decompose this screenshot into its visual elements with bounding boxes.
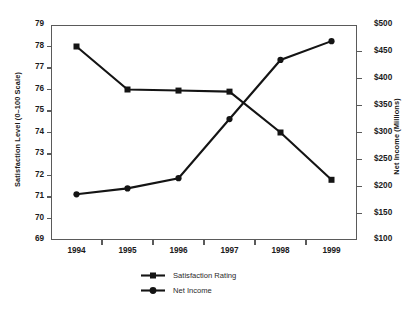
y-axis-right-tick-mark	[357, 78, 362, 79]
y-axis-left-tick-label: 77	[35, 63, 44, 71]
legend-square-marker-icon	[140, 269, 166, 282]
series-line	[77, 47, 332, 180]
y-axis-right-ticks: $500$450$400$350$300$250$200$150$100	[363, 25, 395, 240]
y-axis-left-tick-label: 69	[35, 235, 44, 243]
x-axis-tick-label: 1995	[118, 246, 136, 255]
y-axis-right-tick-mark	[357, 213, 362, 214]
data-point-marker	[226, 116, 232, 122]
y-axis-right-tick-mark	[357, 159, 362, 160]
y-axis-right-tick-label: $350	[374, 101, 392, 109]
y-axis-right-tick-label: $300	[374, 128, 392, 136]
y-axis-right-tick-label: $400	[374, 74, 392, 82]
data-point-marker	[125, 87, 131, 93]
x-axis-tick-label: 1994	[67, 246, 85, 255]
series-satisfaction-rating	[74, 44, 335, 183]
x-axis-tick-mark	[152, 240, 153, 245]
y-axis-left-tick-label: 72	[35, 171, 44, 179]
y-axis-left-tick-label: 75	[35, 106, 44, 114]
data-point-marker	[124, 185, 130, 191]
x-axis-tick-label: 1996	[169, 246, 187, 255]
y-axis-right-tick-label: $100	[374, 235, 392, 243]
x-axis-tick-label: 1999	[322, 246, 340, 255]
series-net-income	[73, 38, 334, 197]
y-axis-left-tick-label: 73	[35, 149, 44, 157]
y-axis-left-tick-label: 79	[35, 20, 44, 28]
y-axis-right-tick-label: $500	[374, 20, 392, 28]
y-axis-right-tick-label: $200	[374, 182, 392, 190]
y-axis-left-tick-label: 76	[35, 85, 44, 93]
data-point-marker	[74, 44, 80, 50]
legend-item[interactable]: Satisfaction Rating	[140, 268, 340, 283]
legend-item-label: Satisfaction Rating	[173, 271, 236, 280]
y-axis-right-tick-mark	[357, 51, 362, 52]
data-point-marker	[175, 175, 181, 181]
legend-item[interactable]: Net Income	[140, 283, 340, 298]
y-axis-left-tick-label: 74	[35, 128, 44, 136]
legend-circle-marker-icon	[140, 284, 166, 297]
chart-container: Satisfaction Level (0–100 Scale) Net Inc…	[0, 0, 413, 315]
x-axis-labels: 199419951996199719981999	[51, 245, 357, 259]
data-point-marker	[227, 89, 233, 95]
plot-series-layer	[51, 25, 357, 240]
y-axis-left-tick-label: 71	[35, 192, 44, 200]
data-point-marker	[278, 130, 284, 136]
x-axis-tick-mark	[305, 240, 306, 245]
y-axis-right-tick-mark	[357, 105, 362, 106]
y-axis-right-tick-mark	[357, 186, 362, 187]
data-point-marker	[329, 177, 335, 183]
y-axis-left-tick-label: 78	[35, 42, 44, 50]
y-axis-left-ticks: 7978777675747372717069	[18, 25, 44, 240]
y-axis-right-tick-mark	[357, 132, 362, 133]
y-axis-right-tick-label: $450	[374, 47, 392, 55]
y-axis-left-tick-label: 70	[35, 214, 44, 222]
series-line	[77, 41, 332, 194]
data-point-marker	[277, 57, 283, 63]
data-point-marker	[73, 191, 79, 197]
data-point-marker	[176, 88, 182, 94]
x-axis-tick-label: 1998	[271, 246, 289, 255]
y-axis-right-tick-label: $250	[374, 155, 392, 163]
x-axis-tick-mark	[203, 240, 204, 245]
data-point-marker	[328, 38, 334, 44]
x-axis-tick-mark	[254, 240, 255, 245]
legend-item-label: Net Income	[173, 286, 212, 295]
chart-legend: Satisfaction RatingNet Income	[140, 268, 340, 298]
y-axis-right-tick-label: $150	[374, 209, 392, 217]
x-axis-tick-mark	[101, 240, 102, 245]
x-axis-tick-label: 1997	[220, 246, 238, 255]
